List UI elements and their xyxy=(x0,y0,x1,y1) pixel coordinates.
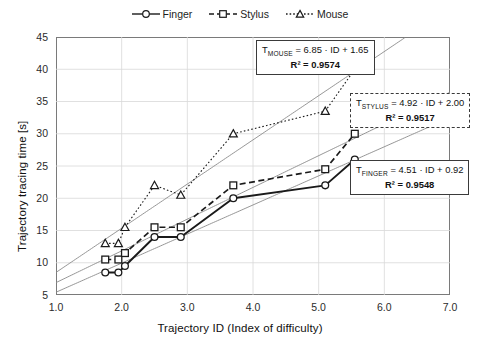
annotation-mouse-r2: R² = 0.9574 xyxy=(262,59,369,72)
eq-subscript: FINGER xyxy=(362,170,388,177)
y-axis-title: Trajectory tracing time [s] xyxy=(16,121,28,252)
x-tick-label: 3.0 xyxy=(167,302,207,313)
x-tick-label: 2.0 xyxy=(102,302,142,313)
eq-subscript: STYLUS xyxy=(362,103,389,110)
annotation-stylus-r2: R² = 0.9517 xyxy=(356,112,464,125)
annotation-stylus-equation-text: TSTYLUS = 4.92 · ID + 2.00 xyxy=(356,97,464,112)
x-tick-label: 4.0 xyxy=(233,302,273,313)
x-tick-label: 6.0 xyxy=(364,302,404,313)
eq-body: = 4.51 · ID + 0.92 xyxy=(388,164,464,175)
x-tick-label: 5.0 xyxy=(299,302,339,313)
x-tick-label: 1.0 xyxy=(36,302,76,313)
eq-subscript: MOUSE xyxy=(268,50,293,57)
x-tick-label: 7.0 xyxy=(430,302,470,313)
annotation-finger-r2: R² = 0.9548 xyxy=(356,179,463,192)
annotation-stylus-equation: TSTYLUS = 4.92 · ID + 2.00 R² = 0.9517 xyxy=(350,93,470,128)
eq-body: = 4.92 · ID + 2.00 xyxy=(389,97,465,108)
annotation-mouse-equation: TMOUSE = 6.85 · ID + 1.65 R² = 0.9574 xyxy=(256,40,375,75)
eq-body: = 6.85 · ID + 1.65 xyxy=(293,44,369,55)
x-axis-title: Trajectory ID (Index of difficulty) xyxy=(0,322,480,334)
annotation-finger-equation-text: TFINGER = 4.51 · ID + 0.92 xyxy=(356,164,463,179)
chart-root: Finger Stylus Mouse 51015202530354045 1.… xyxy=(0,0,480,348)
annotation-finger-equation: TFINGER = 4.51 · ID + 0.92 R² = 0.9548 xyxy=(350,160,469,195)
annotation-mouse-equation-text: TMOUSE = 6.85 · ID + 1.65 xyxy=(262,44,369,59)
